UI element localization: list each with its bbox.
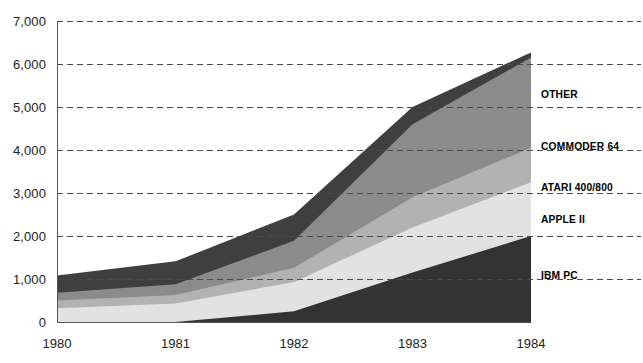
- chart-container: 01,0002,0003,0004,0005,0006,0007,000 198…: [0, 0, 643, 363]
- legend-label-other[interactable]: OTHER: [541, 88, 578, 100]
- legend-label-apple-ii[interactable]: APPLE II: [541, 213, 585, 225]
- legend-label-ibm-pc[interactable]: IBM PC: [541, 269, 578, 281]
- legend-label-commoder-64[interactable]: COMMODER 64: [541, 140, 619, 152]
- legend-label-atari-400-800[interactable]: ATARI 400/800: [541, 181, 613, 193]
- area-series-group: [57, 52, 531, 322]
